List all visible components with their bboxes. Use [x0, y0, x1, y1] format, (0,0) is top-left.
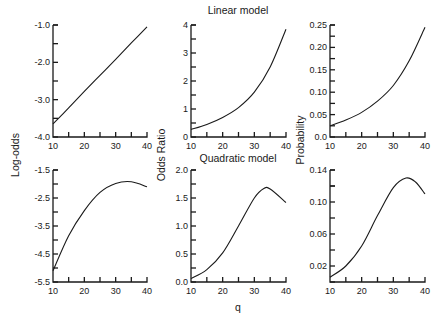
x-tick-label: 40	[142, 141, 152, 151]
x-tick-label: 20	[79, 286, 89, 296]
chart-panel-2: 1020304001234	[183, 20, 291, 151]
y-tick-label: -3.0	[34, 95, 50, 105]
y-tick-label: 1.0	[175, 221, 188, 231]
y-tick-label: 0.20	[309, 42, 327, 52]
x-tick-label: 10	[325, 286, 335, 296]
x-tick-label: 20	[218, 286, 228, 296]
y-tick-label: 0	[183, 132, 188, 142]
y-tick-label: 0.10	[309, 87, 327, 97]
data-curve	[53, 27, 147, 124]
y-tick-label: 2.0	[175, 165, 188, 175]
x-tick-label: 40	[420, 141, 430, 151]
data-curve	[330, 178, 425, 277]
y-tick-label: 3	[183, 48, 188, 58]
y-tick-label: 1	[183, 104, 188, 114]
x-tick-label: 30	[249, 141, 259, 151]
x-tick-label: 40	[281, 141, 291, 151]
y-tick-label: 4	[183, 20, 188, 30]
y-tick-label: 0.10	[309, 197, 327, 207]
y-tick-label: -2.5	[34, 193, 50, 203]
bottom-row-title: Quadratic model	[199, 152, 276, 164]
x-tick-label: 30	[111, 286, 121, 296]
y-tick-label: -3.5	[34, 221, 50, 231]
y-tick-label: -1.0	[34, 20, 50, 30]
x-tick-label: 20	[357, 286, 367, 296]
axes	[330, 170, 425, 282]
y-tick-label: 0.14	[309, 165, 327, 175]
y-tick-label: 0.15	[309, 65, 327, 75]
figure: Linear model Quadratic model q Log-odds …	[0, 0, 440, 323]
y-tick-label: 2	[183, 76, 188, 86]
y-tick-label: 0.0	[314, 132, 327, 142]
chart-panel-6: 102030400.020.060.100.14	[309, 165, 430, 296]
y-tick-label: 1.5	[175, 193, 188, 203]
y-tick-label: 0.0	[175, 277, 188, 287]
x-tick-label: 30	[388, 286, 398, 296]
y-axis-title-probability: Probability	[294, 115, 306, 165]
y-tick-label: -4.0	[34, 132, 50, 142]
data-curve	[53, 182, 147, 271]
y-tick-label: 0.02	[309, 261, 327, 271]
x-tick-label: 20	[218, 141, 228, 151]
x-tick-label: 40	[420, 286, 430, 296]
x-tick-label: 10	[186, 286, 196, 296]
axes	[53, 170, 147, 282]
chart-panel-4: 10203040-5.5-4.5-3.5-2.5-1.5	[34, 165, 152, 296]
y-tick-label: -2.0	[34, 57, 50, 67]
x-tick-label: 10	[186, 141, 196, 151]
x-tick-label: 30	[249, 286, 259, 296]
data-curve	[191, 187, 286, 278]
x-tick-label: 30	[111, 141, 121, 151]
x-tick-label: 40	[142, 286, 152, 296]
y-tick-label: -5.5	[34, 277, 50, 287]
chart-panel-5: 102030400.00.51.01.52.0	[175, 165, 291, 296]
x-tick-label: 20	[357, 141, 367, 151]
y-axis-title-log-odds: Log-odds	[9, 133, 21, 177]
chart-panel-3: 102030400.00.050.100.150.200.25	[309, 20, 430, 151]
y-tick-label: 0.05	[309, 110, 327, 120]
y-tick-label: 0.06	[309, 229, 327, 239]
x-tick-label: 40	[281, 286, 291, 296]
axes	[191, 25, 286, 137]
data-curve	[330, 27, 425, 126]
top-row-title: Linear model	[208, 4, 269, 16]
x-axis-title: q	[235, 301, 241, 313]
data-curve	[191, 29, 286, 129]
y-tick-label: -4.5	[34, 249, 50, 259]
x-tick-label: 20	[79, 141, 89, 151]
x-tick-label: 10	[48, 141, 58, 151]
x-tick-label: 30	[388, 141, 398, 151]
y-tick-label: -1.5	[34, 165, 50, 175]
y-tick-label: 0.5	[175, 249, 188, 259]
x-tick-label: 10	[325, 141, 335, 151]
chart-panel-1: 10203040-4.0-3.0-2.0-1.0	[34, 20, 152, 151]
y-tick-label: 0.25	[309, 20, 327, 30]
x-tick-label: 10	[48, 286, 58, 296]
y-axis-title-odds-ratio: Odds Ratio	[155, 129, 167, 182]
